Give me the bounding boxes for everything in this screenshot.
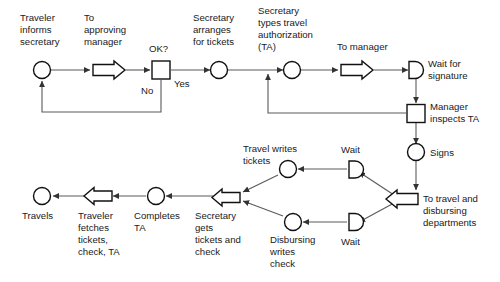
svg-text:tickets: tickets [243,155,270,166]
place-completes-ta[interactable] [148,188,165,205]
label-ok-question: OK? [149,43,168,54]
label-no: No [141,85,153,96]
label-disbursing-writes-check: Disbursing writes check [269,234,315,269]
label-traveler-fetches-tickets-check-ta: Traveler fetches tickets, check, TA [78,210,120,257]
svg-text:approving: approving [84,24,126,35]
place-wait-bottom[interactable] [349,214,364,231]
edge-departments-to-wait-bottom [359,203,394,222]
place-travels[interactable] [34,188,51,205]
svg-text:types travel: types travel [258,17,307,28]
transition-traveler-fetches-tickets-check-ta[interactable] [84,188,112,205]
transition-to-manager[interactable] [341,61,373,79]
label-to-approving-manager: To approving manager [84,12,126,47]
transition-manager-inspects-ta[interactable] [407,105,425,123]
label-to-travel-and-disbursing-departments: To travel and disbursing departments [423,193,478,228]
svg-text:check: check [270,258,295,269]
place-signs[interactable] [408,144,425,161]
workflow-diagram: secretary arranges --> loop back to trav… [0,0,500,282]
transition-ok-decision[interactable] [152,61,170,79]
svg-text:Disbursing: Disbursing [270,234,315,245]
edge-inspects-loopback [268,74,406,113]
place-wait-top[interactable] [349,161,364,178]
svg-text:Completes: Completes [134,210,180,221]
label-wait-top: Wait [341,144,360,155]
svg-text:Wait for: Wait for [428,58,461,69]
label-completes-ta: Completes TA [134,210,180,233]
label-secretary-gets-tickets-and-check: Secretary gets tickets and check [195,210,241,257]
svg-text:check: check [195,246,220,257]
svg-text:inspects TA: inspects TA [430,113,480,124]
place-traveler-informs-secretary[interactable] [34,62,51,79]
svg-text:TA: TA [134,222,146,233]
place-travel-writes-tickets[interactable] [280,161,297,178]
svg-text:signature: signature [428,70,467,81]
svg-text:To: To [84,12,94,23]
place-secretary-arranges-for-tickets[interactable] [211,62,228,79]
svg-text:authorization: authorization [258,29,313,40]
svg-text:manager: manager [84,36,123,47]
svg-text:Secretary: Secretary [193,12,234,23]
label-traveler-informs-secretary: Traveler informs secretary [20,12,60,47]
label-signs: Signs [430,147,454,158]
transition-to-approving-manager[interactable] [93,61,125,79]
label-manager-inspects-ta: Manager inspects TA [430,101,480,124]
svg-text:check, TA: check, TA [78,246,120,257]
svg-text:Traveler: Traveler [20,12,56,23]
svg-text:Traveler: Traveler [78,210,114,221]
svg-text:(TA): (TA) [258,41,276,52]
transition-secretary-gets-tickets-and-check[interactable] [212,189,240,206]
edge-disbursing-to-secretary-gets [243,201,283,216]
svg-text:Manager: Manager [430,101,469,112]
edge-travel-writes-to-secretary-gets [243,175,278,192]
svg-text:arranges: arranges [193,24,231,35]
label-travels: Travels [22,210,53,221]
label-wait-bottom: Wait [341,236,360,247]
place-wait-for-signature[interactable] [409,62,424,79]
svg-text:To travel and: To travel and [423,193,478,204]
place-secretary-types-travel-authorization[interactable] [284,62,301,79]
svg-text:tickets and: tickets and [195,234,241,245]
svg-text:Travel writes: Travel writes [243,143,297,154]
edge-departments-to-wait-top [359,172,394,195]
label-wait-for-signature: Wait for signature [428,58,467,81]
svg-text:secretary: secretary [20,36,60,47]
place-disbursing-writes-check[interactable] [285,214,302,231]
label-secretary-arranges-for-tickets: Secretary arranges for tickets [193,12,234,47]
svg-text:departments: departments [423,217,477,228]
label-to-manager: To manager [337,41,388,52]
svg-text:tickets,: tickets, [78,234,108,245]
svg-text:Secretary: Secretary [258,5,299,16]
svg-text:Secretary: Secretary [195,210,236,221]
svg-text:writes: writes [269,246,295,257]
svg-text:informs: informs [20,24,52,35]
svg-text:fetches: fetches [78,222,109,233]
svg-text:disbursing: disbursing [423,205,467,216]
svg-text:for tickets: for tickets [193,36,234,47]
label-yes: Yes [174,78,190,89]
svg-text:gets: gets [195,222,213,233]
label-secretary-types-travel-authorization: Secretary types travel authorization (TA… [258,5,313,52]
